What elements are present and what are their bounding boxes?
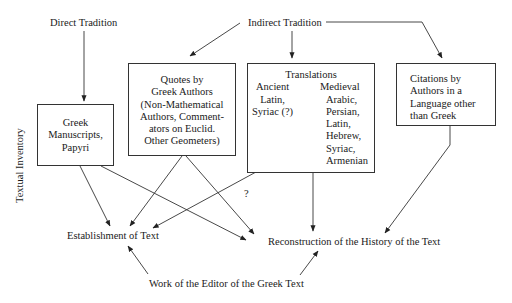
box-quotes-greek-authors: Quotes by Greek Authors (Non-Mathematica… (128, 63, 236, 156)
box-text-line: than Greek (410, 110, 495, 122)
label-indirect-tradition: Indirect Tradition (248, 17, 322, 29)
box-text-line: Authors, Comment- (129, 111, 235, 123)
box-text-line: Latin, (320, 118, 368, 130)
box-text-line: Armenian (320, 155, 368, 167)
box-text-line: Medieval (320, 81, 368, 93)
box-greek-manuscripts: Greek Manuscripts, Papyri (37, 104, 114, 166)
box-text-line: Greek Authors (129, 86, 235, 98)
translations-title: Translations (252, 69, 370, 81)
box-text-line: Quotes by (129, 74, 235, 86)
box-text-line: (Non-Mathematical (129, 99, 235, 111)
translations-ancient-column: Ancient Latin, Syriac (?) (252, 81, 293, 167)
box-text-line: Language other (410, 98, 495, 110)
box-text-line: Authors in a (410, 85, 495, 97)
box-text-line: Hebrew, (320, 130, 368, 142)
box-text-line: Latin, (252, 94, 293, 106)
label-direct-tradition: Direct Tradition (50, 17, 117, 29)
box-text-line: Arabic, (320, 94, 368, 106)
box-text-line: Syriac (?) (252, 106, 293, 118)
label-editor-work: Work of the Editor of the Greek Text (149, 278, 304, 290)
box-text-line: Other Geometers) (129, 135, 235, 147)
box-text-line: Persian, (320, 106, 368, 118)
translations-medieval-column: Medieval Arabic, Persian, Latin, Hebrew,… (320, 81, 370, 167)
box-text-line: Syriac, (320, 143, 368, 155)
label-establishment-of-text: Establishment of Text (67, 230, 159, 242)
box-citations: Citations by Authors in a Language other… (396, 63, 496, 126)
box-text-line: Greek (38, 117, 113, 129)
question-mark: ? (244, 188, 249, 200)
side-label-textual-inventory: Textual Inventory (14, 128, 25, 203)
box-text-line: Papyri (38, 142, 113, 154)
label-reconstruction-history: Reconstruction of the History of the Tex… (268, 236, 440, 248)
box-text-line: Citations by (410, 73, 495, 85)
box-translations: Translations Ancient Latin, Syriac (?) M… (247, 63, 375, 173)
box-text-line: Ancient (252, 81, 293, 93)
box-text-line: ators on Euclid. (129, 123, 235, 135)
box-text-line: Manuscripts, (38, 129, 113, 141)
